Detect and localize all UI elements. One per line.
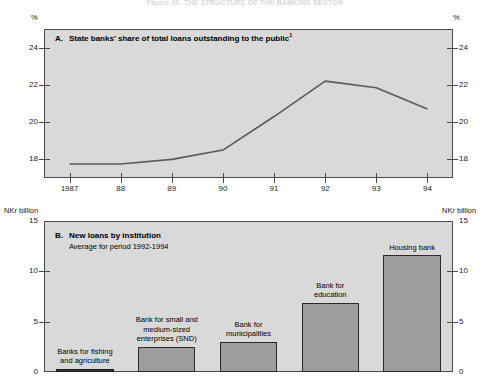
panel-b-ytick-mark-left [39,322,50,323]
panel-a-xtick-label: 92 [301,184,349,193]
panel-a-footnote-marker: 1 [289,32,292,38]
panel-b-ytick-label-right: 15 [459,217,483,225]
panel-a-ytick-label-right: 18 [459,155,483,163]
panel-a-xtick-mark [376,173,377,183]
figure-top-title: Figure 20. THE STRUCTURE OF THE BANKING … [0,0,490,6]
panel-b-unit-left: NKr billion [4,206,38,215]
panel-b-ytick-label-right: 10 [459,267,483,275]
panel-a-ytick-label-left: 22 [14,81,38,89]
panel-b-ytick-label-right: 5 [459,318,483,326]
panel-a-ytick-mark-right [447,85,458,86]
panel-b-subtitle: Average for period 1992-1994 [69,242,169,251]
panel-b-ytick-mark-left [39,271,50,272]
panel-a-ytick-mark-left [39,122,50,123]
panel-a-xtick-label: 88 [97,184,145,193]
panel-a-line [70,81,428,164]
panel-b-bar [56,369,113,372]
panel-a-title-text: State banks' share of total loans outsta… [69,34,289,43]
panel-a-unit-left: % [31,13,38,22]
panel-a-ytick-mark-left [39,48,50,49]
panel-b-bar-label: Housing bank [371,243,453,253]
panel-a-xtick-mark [427,173,428,183]
panel-b-ytick-mark-right [447,322,458,323]
panel-b-bar-label: Bank for education [289,281,371,300]
panel-b-ytick-label-left: 5 [14,318,38,326]
panel-b-bar-label: Banks for fishing and agriculture [44,347,126,366]
panel-a-ytick-label-left: 18 [14,155,38,163]
panel-b-ytick-label-left: 0 [14,368,38,376]
panel-b-bar [383,255,440,372]
panel-a-xtick-mark [274,173,275,183]
panel-b-bar-label: Bank for municipalities [208,320,290,339]
figure-root: Figure 20. THE STRUCTURE OF THE BANKING … [0,0,490,390]
panel-a-line-series [45,30,452,177]
panel-a-plot-area [44,29,453,178]
panel-b-title-text: New loans by institution [69,231,161,240]
panel-a-ytick-mark-right [447,159,458,160]
panel-b-bar-label: Bank for small and medium-sized enterpri… [126,315,208,344]
panel-a-ytick-label-left: 20 [14,118,38,126]
panel-b-bar [302,303,359,372]
panel-b-title: B.New loans by institution [55,231,161,241]
panel-b-bar [220,342,277,372]
panel-a-xtick-label: 90 [199,184,247,193]
panel-a-title: A.State banks' share of total loans outs… [55,34,292,44]
panel-b-ytick-label-right: 0 [459,368,483,376]
panel-a-xtick-mark [121,173,122,183]
panel-a-xtick-mark [172,173,173,183]
panel-a-xtick-mark [70,173,71,183]
panel-a-ytick-mark-right [447,122,458,123]
panel-a-unit-right: % [453,13,460,22]
panel-b-ytick-label-left: 15 [14,217,38,225]
panel-a-xtick-label: 94 [403,184,451,193]
panel-a-xtick-mark [223,173,224,183]
panel-a-letter: A. [55,34,69,44]
panel-b-bar [138,347,195,372]
panel-a-xtick-label: 91 [250,184,298,193]
panel-a-ytick-mark-right [447,48,458,49]
panel-b-ytick-label-left: 10 [14,267,38,275]
panel-a-ytick-label-right: 24 [459,44,483,52]
panel-a-xtick-label: 93 [352,184,400,193]
panel-a-ytick-mark-left [39,85,50,86]
panel-a-ytick-mark-left [39,159,50,160]
panel-b-ytick-mark-right [447,271,458,272]
panel-a-ytick-label-left: 24 [14,44,38,52]
panel-a-ytick-label-right: 20 [459,118,483,126]
panel-a-xtick-mark [325,173,326,183]
panel-b-unit-right: NKr billion [442,206,476,215]
panel-a-ytick-label-right: 22 [459,81,483,89]
panel-b-letter: B. [55,231,69,241]
panel-a-xtick-label: 89 [148,184,196,193]
panel-a-xtick-label: 1987 [46,184,94,193]
